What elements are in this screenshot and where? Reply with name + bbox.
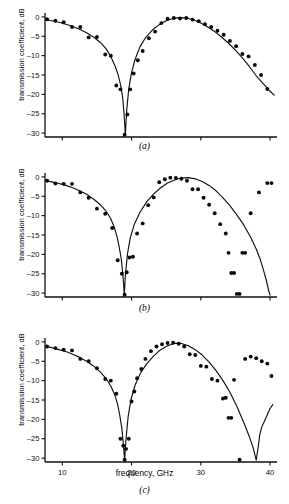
data-point	[62, 182, 66, 186]
data-point	[213, 211, 217, 215]
data-point	[62, 348, 66, 352]
plot-panel-a: transmission coefficient, dB 0–5–10–15–2…	[0, 0, 289, 155]
data-point	[147, 36, 151, 40]
y-tick-label: –5	[31, 32, 39, 41]
data-point	[95, 207, 99, 211]
data-point	[234, 44, 238, 48]
data-point	[127, 437, 131, 441]
data-point	[159, 21, 163, 25]
plot-area-c: 0–5–10–15–20–25–3010203040	[0, 325, 289, 480]
data-points-b	[45, 176, 273, 297]
data-point	[171, 341, 175, 345]
data-point	[53, 346, 57, 350]
data-point	[254, 356, 258, 360]
data-point	[247, 54, 251, 58]
data-point	[243, 357, 247, 361]
data-point	[152, 195, 156, 199]
y-tick-label: 0	[35, 173, 39, 182]
data-point	[53, 19, 57, 23]
figure-transmission-coefficient: transmission coefficient, dB 0–5–10–15–2…	[0, 0, 289, 504]
data-point	[204, 365, 208, 369]
data-point	[188, 352, 192, 356]
data-point	[109, 379, 113, 383]
data-point	[184, 16, 188, 20]
data-point	[128, 256, 132, 260]
data-point	[131, 255, 135, 259]
data-point	[182, 345, 186, 349]
y-tick-label: –15	[27, 71, 40, 80]
y-tick-label: –15	[27, 396, 40, 405]
data-point	[163, 177, 167, 181]
y-tick-label: –25	[27, 269, 40, 278]
y-tick-label: 0	[35, 13, 39, 22]
data-point	[45, 17, 49, 21]
data-point	[232, 271, 236, 275]
data-point	[87, 196, 91, 200]
data-point	[132, 390, 136, 394]
data-point	[136, 58, 140, 62]
data-point	[224, 232, 228, 236]
data-point	[103, 377, 107, 381]
data-point	[78, 357, 82, 361]
axes-a	[45, 13, 277, 137]
data-point	[124, 447, 128, 451]
y-tick-label: –10	[27, 376, 40, 385]
data-point	[222, 33, 226, 37]
data-point	[45, 179, 49, 183]
data-point	[185, 179, 189, 183]
data-point	[114, 84, 118, 88]
y-tick-label: –25	[27, 109, 40, 118]
data-point	[121, 444, 125, 448]
data-point	[191, 187, 195, 191]
data-point	[143, 357, 147, 361]
data-point	[215, 29, 219, 33]
data-point	[215, 379, 219, 383]
y-tick-label: –10	[27, 51, 40, 60]
y-tick-label: –30	[27, 454, 40, 463]
data-point	[172, 16, 176, 20]
x-axis-title: frequency, GHz	[0, 469, 289, 478]
data-point	[177, 342, 181, 346]
y-axis-title-c: transmission coefficient, dB	[17, 315, 26, 445]
data-point	[95, 366, 99, 370]
data-point	[209, 25, 213, 29]
data-point	[249, 355, 253, 359]
data-point	[132, 72, 136, 76]
data-point	[218, 222, 222, 226]
data-point	[45, 345, 49, 349]
y-tick-label: –5	[31, 192, 39, 201]
data-point	[259, 73, 263, 77]
data-point	[141, 221, 145, 225]
data-point	[125, 113, 129, 117]
data-point	[197, 19, 201, 23]
data-point	[155, 345, 159, 349]
data-point	[243, 251, 247, 255]
data-point	[110, 226, 114, 230]
data-point	[196, 187, 200, 191]
data-point	[265, 362, 269, 366]
data-point	[260, 359, 264, 363]
data-point	[224, 396, 228, 400]
data-point	[210, 377, 214, 381]
data-point	[125, 270, 129, 274]
data-point	[238, 292, 242, 296]
data-point	[78, 190, 82, 194]
data-point	[135, 232, 139, 236]
y-tick-label: –10	[27, 211, 40, 220]
plot-panel-c: transmission coefficient, dB 0–5–10–15–2…	[0, 325, 289, 480]
data-point	[257, 190, 261, 194]
y-tick-label: –25	[27, 434, 40, 443]
data-point	[193, 353, 197, 357]
data-point	[123, 293, 127, 297]
data-point	[270, 374, 274, 378]
data-point	[130, 400, 134, 404]
data-point	[265, 87, 269, 91]
panel-caption-b: (b)	[0, 303, 289, 313]
data-point	[153, 30, 157, 34]
data-point	[123, 458, 127, 462]
data-point	[149, 349, 153, 353]
data-point	[166, 17, 170, 21]
theory-curve-c	[46, 343, 273, 460]
axes-c	[45, 338, 277, 462]
data-point	[228, 39, 232, 43]
